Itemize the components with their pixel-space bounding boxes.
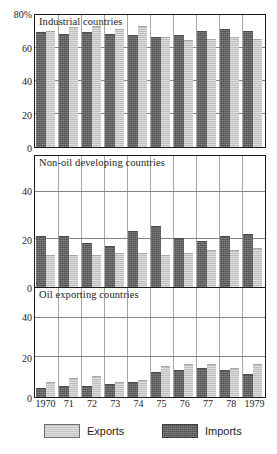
- x-tick-label: 71: [64, 398, 74, 409]
- bar-group: [150, 156, 173, 287]
- bar-group: [196, 15, 219, 147]
- bar-imports: [174, 238, 183, 287]
- chart-panel-3: Oil exporting countries: [34, 287, 266, 398]
- bar-group: [58, 288, 81, 397]
- bar-group: [35, 156, 58, 287]
- bar-imports: [105, 384, 114, 397]
- y-tick-label: 20: [0, 109, 32, 120]
- bar-group: [196, 288, 219, 397]
- y-axis-labels: 80%60402004020040200: [0, 0, 32, 454]
- bar-exports: [92, 255, 101, 287]
- three-panel-bar-chart: 80%60402004020040200 Industrial countrie…: [0, 0, 277, 454]
- x-tick-label: 76: [180, 398, 190, 409]
- y-tick-label: 0: [0, 143, 32, 154]
- bar-group: [35, 15, 58, 147]
- bar-group: [35, 288, 58, 397]
- bar-imports: [174, 35, 183, 147]
- x-tick-label: 77: [203, 398, 213, 409]
- y-tick-label: 40: [0, 186, 32, 197]
- legend-item-exports: Exports: [44, 424, 124, 438]
- legend-label: Exports: [87, 425, 124, 437]
- y-tick-label: 0: [0, 393, 32, 404]
- bar-exports: [230, 368, 239, 397]
- bar-imports: [220, 370, 229, 397]
- y-tick-label: 0: [0, 283, 32, 294]
- bar-imports: [82, 32, 91, 147]
- bar-exports: [138, 380, 147, 397]
- x-tick-label: 74: [133, 398, 143, 409]
- bar-exports: [184, 253, 193, 287]
- bar-exports: [69, 378, 78, 397]
- plot-area: Non-oil developing countries: [34, 155, 266, 288]
- bar-imports: [105, 34, 114, 147]
- bar-imports: [82, 243, 91, 287]
- bar-imports: [105, 246, 114, 287]
- bar-imports: [36, 388, 45, 397]
- bar-group: [81, 288, 104, 397]
- bar-exports: [253, 39, 262, 147]
- bar-group: [104, 288, 127, 397]
- panel-title: Non-oil developing countries: [39, 157, 165, 168]
- bar-imports: [59, 34, 68, 147]
- y-tick-label: 40: [0, 312, 32, 323]
- bar-imports: [59, 236, 68, 287]
- bar-group: [104, 15, 127, 147]
- bar-exports: [161, 37, 170, 147]
- bar-group: [127, 15, 150, 147]
- legend-swatch-exports: [44, 424, 80, 438]
- bar-imports: [59, 386, 68, 397]
- y-tick-label: 20: [0, 352, 32, 363]
- bar-group: [104, 156, 127, 287]
- bar-exports: [46, 255, 55, 287]
- x-tick-label: 75: [157, 398, 167, 409]
- bar-group: [242, 288, 265, 397]
- bar-imports: [128, 35, 137, 147]
- bar-group: [173, 288, 196, 397]
- bar-exports: [46, 382, 55, 397]
- bar-group: [173, 156, 196, 287]
- bar-exports: [138, 26, 147, 147]
- plot-area: Industrial countries: [34, 14, 266, 148]
- bar-group: [219, 15, 242, 147]
- bar-exports: [184, 364, 193, 397]
- chart-legend: ExportsImports: [34, 424, 266, 448]
- bar-layer: [35, 288, 265, 397]
- bar-layer: [35, 156, 265, 287]
- panel-title: Industrial countries: [39, 16, 122, 27]
- bar-imports: [197, 368, 206, 397]
- chart-panel-1: Industrial countries: [34, 14, 266, 148]
- bar-exports: [92, 376, 101, 397]
- bar-imports: [82, 386, 91, 397]
- bar-group: [242, 156, 265, 287]
- bar-exports: [69, 255, 78, 287]
- y-tick-label: 80%: [0, 9, 32, 20]
- x-tick-label: 73: [110, 398, 120, 409]
- y-tick-label: 60: [0, 42, 32, 53]
- bar-group: [242, 15, 265, 147]
- bar-exports: [138, 253, 147, 287]
- bar-imports: [36, 236, 45, 287]
- x-tick-label: 1970: [36, 398, 56, 409]
- bar-group: [127, 288, 150, 397]
- bar-group: [150, 15, 173, 147]
- bar-imports: [128, 382, 137, 397]
- bar-imports: [243, 234, 252, 287]
- y-tick-label: 40: [0, 76, 32, 87]
- legend-item-imports: Imports: [162, 424, 242, 438]
- bar-imports: [197, 241, 206, 287]
- bar-group: [219, 288, 242, 397]
- bar-group: [81, 156, 104, 287]
- legend-label: Imports: [205, 425, 242, 437]
- bar-imports: [174, 370, 183, 397]
- legend-swatch-imports: [162, 424, 198, 438]
- bar-exports: [161, 366, 170, 397]
- bar-imports: [197, 31, 206, 148]
- bar-exports: [207, 364, 216, 397]
- bar-exports: [161, 255, 170, 287]
- bar-group: [173, 15, 196, 147]
- bar-layer: [35, 15, 265, 147]
- bar-group: [58, 156, 81, 287]
- bar-group: [219, 156, 242, 287]
- x-tick-label: 1979: [244, 398, 264, 409]
- bar-exports: [207, 250, 216, 287]
